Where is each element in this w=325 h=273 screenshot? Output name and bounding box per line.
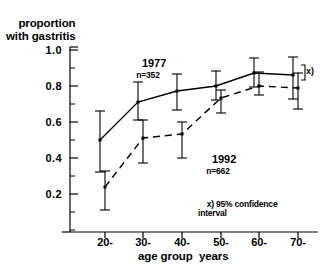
x-axis-ticks (105, 232, 298, 238)
chart-figure: proportionwith gastritis age group years… (0, 0, 325, 273)
series-1992-path (105, 86, 298, 187)
series-1992-markers (104, 85, 300, 189)
series-line-1992 (100, 72, 303, 210)
series-line-1977 (95, 57, 298, 172)
y-axis-major-ticks (70, 50, 78, 194)
plot-area (0, 0, 325, 273)
series-1992-error-bars (100, 72, 303, 210)
y-axis-minor-ticks (70, 68, 75, 230)
series-1977-markers (99, 72, 295, 142)
series-1977-path (100, 73, 293, 140)
